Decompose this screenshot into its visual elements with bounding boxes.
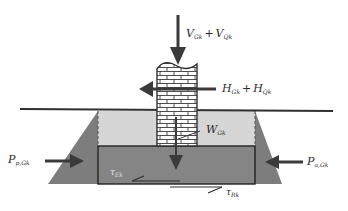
active-pressure-label: Pa,Gk [306,155,329,168]
vertical-load-arrow [170,15,186,65]
base-shear-resistance-arrow [170,187,222,193]
passive-pressure-label: Pp,Gk [7,153,30,167]
shear-rk-label: τRk [226,187,240,198]
foundation-diagram: VGk+VQk HGk+HQk WGk Pp,Gk Pa,Gk τEk [0,0,348,211]
vertical-load-label: VGk+VQk [186,27,232,40]
horizontal-load-label: HGk+HQk [221,82,272,95]
